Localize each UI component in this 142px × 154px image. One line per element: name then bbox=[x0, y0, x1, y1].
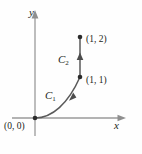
curve-c2 bbox=[77, 37, 84, 77]
point-1-2-dot bbox=[78, 35, 83, 40]
y-axis-label: y bbox=[29, 7, 34, 18]
x-axis bbox=[12, 115, 126, 121]
math-figure-path-c1-c2: y x (0, 0) (1, 1) (1, 2) C1 C2 bbox=[0, 0, 142, 154]
point-label-1-2: (1, 2) bbox=[86, 35, 107, 45]
point-1-1-dot bbox=[78, 75, 83, 80]
curve-label-c2: C2 bbox=[58, 54, 69, 65]
x-axis-label: x bbox=[114, 120, 119, 131]
curve-c1 bbox=[35, 77, 80, 118]
point-origin-dot bbox=[33, 116, 38, 121]
point-label-1-1: (1, 1) bbox=[86, 76, 107, 86]
curve-label-c1: C1 bbox=[45, 90, 56, 101]
curve-label-c2-subscript: 2 bbox=[65, 59, 69, 67]
curve-c1-direction-arrow-icon bbox=[69, 93, 76, 101]
curve-label-c1-subscript: 1 bbox=[52, 95, 56, 103]
curve-c2-direction-arrow-icon bbox=[77, 53, 84, 61]
point-label-origin: (0, 0) bbox=[4, 122, 25, 132]
